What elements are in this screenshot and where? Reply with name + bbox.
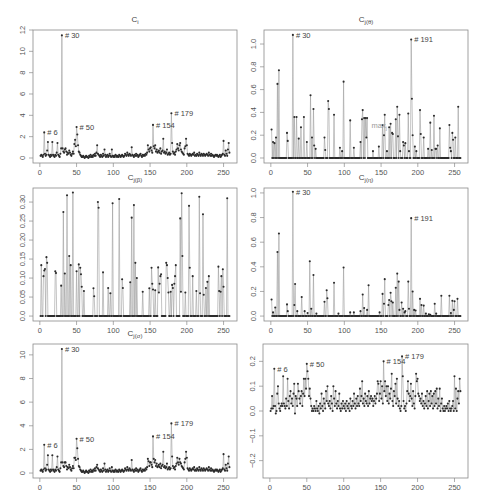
data-point <box>377 383 379 385</box>
data-point <box>59 153 61 155</box>
data-point <box>178 315 180 317</box>
data-point <box>95 155 97 157</box>
data-point <box>398 400 400 402</box>
data-point <box>325 390 327 392</box>
data-point <box>225 149 227 151</box>
data-point <box>198 152 200 154</box>
data-point <box>373 400 375 402</box>
data-point <box>175 264 177 266</box>
data-point <box>339 407 341 409</box>
data-point <box>79 267 81 269</box>
data-point <box>107 287 109 289</box>
data-point <box>287 378 289 380</box>
data-point <box>324 149 326 151</box>
data-point <box>459 378 461 380</box>
data-point <box>227 148 229 150</box>
data-point <box>362 403 364 405</box>
data-point <box>395 118 397 120</box>
data-point <box>343 407 345 409</box>
data-point <box>328 405 330 407</box>
data-point <box>411 405 413 407</box>
data-point <box>45 315 47 317</box>
data-point <box>199 292 201 294</box>
data-point <box>445 405 447 407</box>
point-label: # 179 <box>174 109 193 118</box>
data-point <box>287 140 289 142</box>
x-tick-label: 150 <box>144 326 157 335</box>
data-point <box>303 116 305 118</box>
data-point <box>398 309 400 311</box>
data-point <box>147 144 149 146</box>
data-point <box>366 395 368 397</box>
data-point <box>404 142 406 144</box>
data-point <box>223 140 225 142</box>
data-point <box>170 153 172 155</box>
data-point <box>275 136 277 138</box>
data-point <box>68 255 70 257</box>
x-tick-label: 50 <box>72 168 80 177</box>
data-point <box>184 291 186 293</box>
y-tick-label: 6 <box>18 92 27 96</box>
data-point <box>307 378 309 380</box>
data-point <box>78 315 80 317</box>
point-label: # 154 <box>156 121 175 130</box>
data-point <box>109 292 111 294</box>
annotation: maxj <box>372 121 387 131</box>
data-point <box>55 155 57 157</box>
data-point <box>313 405 315 407</box>
data-point <box>68 464 70 466</box>
data-point <box>404 405 406 407</box>
data-point <box>455 388 457 390</box>
data-point <box>300 126 302 128</box>
x-tick-label: 50 <box>303 483 311 492</box>
data-point <box>165 466 167 468</box>
data-point <box>354 407 356 409</box>
data-point <box>160 467 162 469</box>
data-point <box>188 205 190 207</box>
x-tick-label: 0 <box>38 483 42 492</box>
data-point <box>217 266 219 268</box>
y-tick-label: −0.1 <box>248 428 257 443</box>
data-point <box>150 464 152 466</box>
data-point <box>416 380 418 382</box>
title-subscript: j(σ) <box>132 333 142 339</box>
data-point <box>387 385 389 387</box>
data-point <box>70 264 72 266</box>
data-point <box>81 286 83 288</box>
point-label: # 6 <box>47 441 57 450</box>
data-point <box>448 157 450 159</box>
data-point <box>43 131 45 133</box>
data-point <box>362 293 364 295</box>
data-point <box>62 211 64 213</box>
y-tick-label: 6 <box>18 400 27 404</box>
data-point <box>382 315 384 317</box>
data-point <box>291 398 293 400</box>
data-point <box>387 315 389 317</box>
y-tick-label: 8 <box>18 376 27 380</box>
data-point <box>381 385 383 387</box>
data-point <box>429 122 431 124</box>
data-point <box>298 390 300 392</box>
data-point <box>357 403 359 405</box>
data-point <box>454 136 456 138</box>
data-point <box>372 405 374 407</box>
data-point <box>386 400 388 402</box>
data-point <box>46 464 48 466</box>
data-point <box>181 255 183 257</box>
data-point <box>329 407 331 409</box>
data-point <box>227 463 229 465</box>
data-point <box>177 461 179 463</box>
data-point <box>353 393 355 395</box>
data-point <box>102 467 104 469</box>
data-point <box>166 148 168 150</box>
data-point <box>273 142 275 144</box>
data-point <box>102 271 104 273</box>
figure: Ci050100150200250024681012# 6# 30# 50# 1… <box>0 0 479 504</box>
data-point <box>377 380 379 382</box>
data-point <box>109 467 111 469</box>
data-point <box>224 470 226 472</box>
data-point <box>330 395 332 397</box>
data-point <box>298 398 300 400</box>
data-point <box>276 251 278 253</box>
x-tick-label: 250 <box>448 326 461 335</box>
